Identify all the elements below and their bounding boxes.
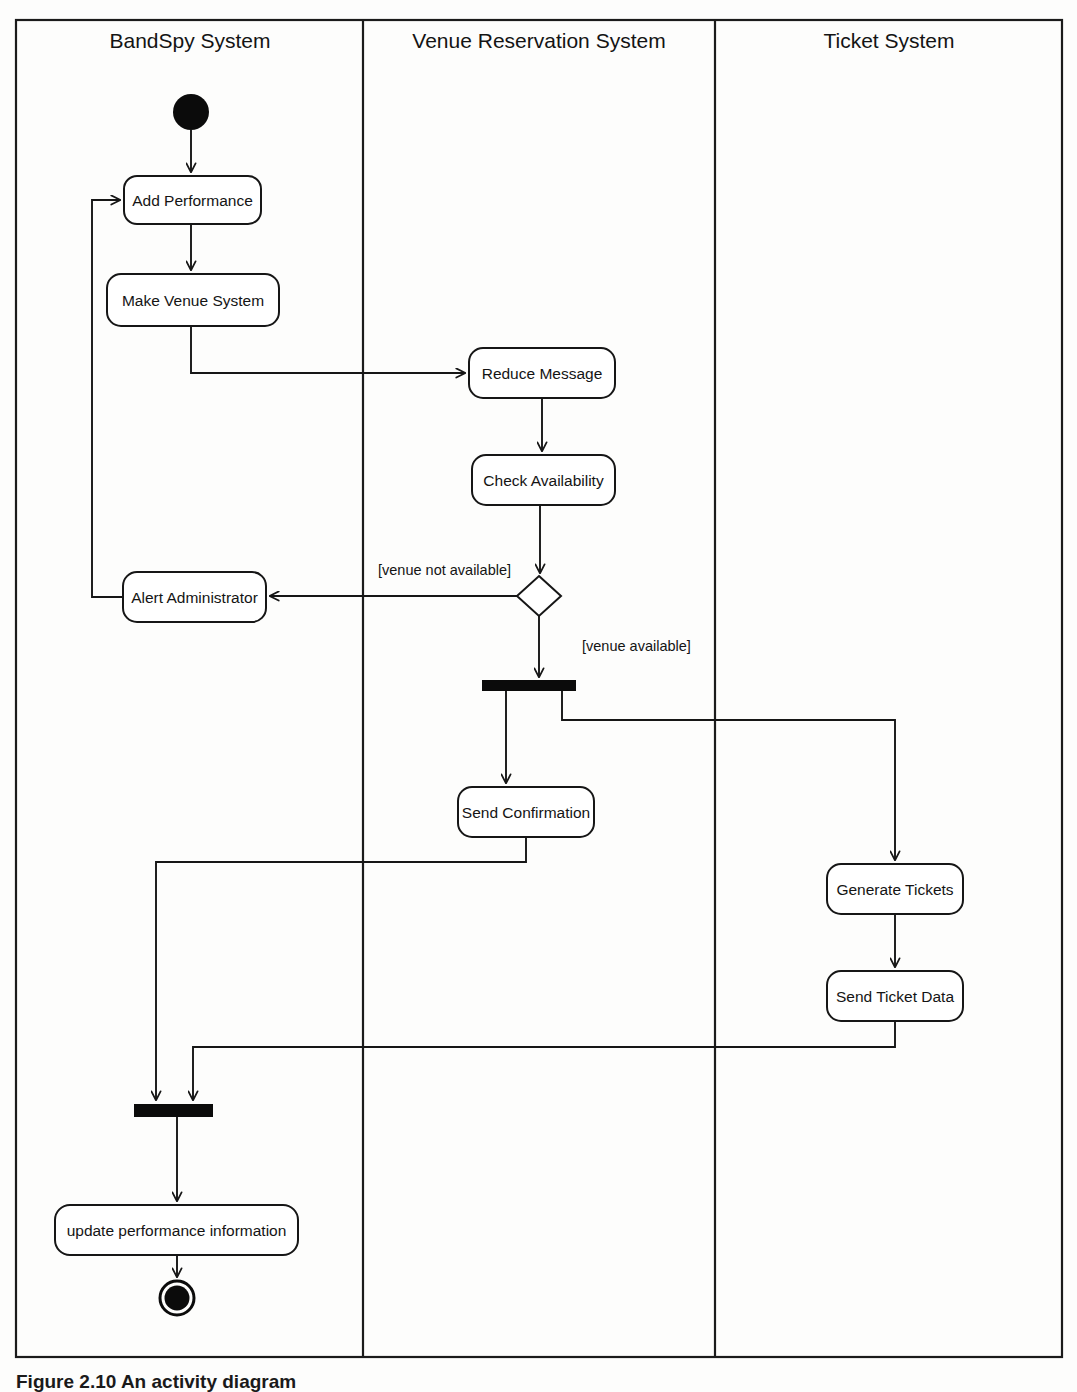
edge-fork-to-generate-tickets xyxy=(562,691,895,860)
action-check-availability[interactable]: Check Availability xyxy=(472,455,615,505)
decision-node[interactable] xyxy=(517,576,561,616)
action-send-confirmation-label: Send Confirmation xyxy=(462,804,590,821)
final-node-inner-disc xyxy=(165,1286,190,1311)
lane-titles: BandSpy System Venue Reservation System … xyxy=(109,29,954,52)
action-reduce-message-label: Reduce Message xyxy=(482,365,603,382)
guard-venue-available: [venue available] xyxy=(582,638,691,654)
action-alert-administrator[interactable]: Alert Administrator xyxy=(123,572,266,622)
activity-nodes: Add Performance Make Venue System Reduce… xyxy=(55,94,963,1315)
action-send-ticket-data[interactable]: Send Ticket Data xyxy=(827,971,963,1021)
activity-diagram-canvas: BandSpy System Venue Reservation System … xyxy=(0,0,1077,1392)
activity-diagram-page: BandSpy System Venue Reservation System … xyxy=(0,0,1077,1392)
action-generate-tickets[interactable]: Generate Tickets xyxy=(827,864,963,914)
action-alert-administrator-label: Alert Administrator xyxy=(131,589,258,606)
guard-venue-not-available: [venue not available] xyxy=(378,562,511,578)
action-add-performance[interactable]: Add Performance xyxy=(124,176,261,224)
lane-title-venue: Venue Reservation System xyxy=(412,29,665,52)
action-update-performance-information-label: update performance information xyxy=(67,1222,287,1239)
action-reduce-message[interactable]: Reduce Message xyxy=(469,348,615,398)
action-generate-tickets-label: Generate Tickets xyxy=(836,881,953,898)
edge-send-confirmation-to-join xyxy=(156,837,526,1100)
action-update-performance-information[interactable]: update performance information xyxy=(55,1205,298,1255)
action-make-venue-system-label: Make Venue System xyxy=(122,292,264,309)
fork-bar[interactable] xyxy=(482,680,576,691)
figure-caption: Figure 2.10 An activity diagram xyxy=(16,1371,296,1392)
lane-title-bandspy: BandSpy System xyxy=(109,29,270,52)
action-add-performance-label: Add Performance xyxy=(132,192,253,209)
edge-send-ticket-data-to-join xyxy=(193,1021,895,1100)
action-send-confirmation[interactable]: Send Confirmation xyxy=(458,787,594,837)
edge-make-venue-to-reduce-message xyxy=(191,326,465,373)
edge-alert-administrator-to-add-performance xyxy=(92,200,123,597)
final-node[interactable] xyxy=(160,1281,194,1315)
action-send-ticket-data-label: Send Ticket Data xyxy=(836,988,954,1005)
join-bar[interactable] xyxy=(134,1104,213,1117)
lane-title-ticket: Ticket System xyxy=(823,29,954,52)
action-make-venue-system[interactable]: Make Venue System xyxy=(107,274,279,326)
action-check-availability-label: Check Availability xyxy=(483,472,604,489)
initial-node[interactable] xyxy=(173,94,209,130)
